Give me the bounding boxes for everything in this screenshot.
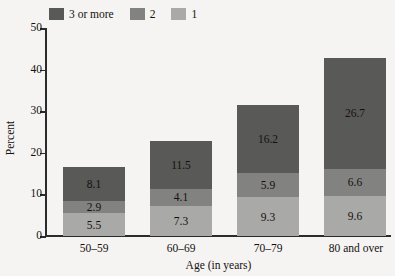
bar-segment-value: 5.9 bbox=[261, 179, 275, 191]
y-tick-label: 0 bbox=[36, 229, 42, 242]
bar-segment-1[interactable]: 7.3 bbox=[150, 206, 212, 236]
bar-segment-value: 26.7 bbox=[345, 107, 365, 119]
bar-segment-value: 9.6 bbox=[348, 210, 362, 222]
y-tick-label: 50 bbox=[31, 21, 43, 34]
stacked-bar[interactable]: 26.7 6.6 9.6 bbox=[324, 58, 386, 236]
legend-label-2: 2 bbox=[150, 8, 156, 20]
legend-label-1: 1 bbox=[191, 8, 197, 20]
bar-segment-value: 5.5 bbox=[87, 219, 101, 231]
y-axis-line bbox=[45, 28, 47, 236]
bar-segment-value: 2.9 bbox=[87, 201, 101, 213]
stacked-bar[interactable]: 8.1 2.9 5.5 bbox=[63, 167, 125, 236]
x-tick-label-50-59: 50–59 bbox=[63, 242, 125, 254]
bar-segment-value: 7.3 bbox=[174, 215, 188, 227]
stacked-bar-chart: 3 or more 2 1 Percent 0 10 20 bbox=[0, 0, 395, 276]
bar-segment-2[interactable]: 5.9 bbox=[237, 173, 299, 198]
bar-segment-2[interactable]: 4.1 bbox=[150, 189, 212, 206]
y-tick-label: 10 bbox=[31, 187, 43, 200]
bar-segment-value: 11.5 bbox=[171, 159, 191, 171]
x-tick-label-70-79: 70–79 bbox=[237, 242, 299, 254]
x-axis-title: Age (in years) bbox=[46, 259, 391, 271]
bar-segment-value: 16.2 bbox=[258, 133, 278, 145]
y-tick-label: 40 bbox=[31, 63, 43, 76]
bar-segment-1[interactable]: 9.6 bbox=[324, 196, 386, 236]
y-tick-label: 30 bbox=[31, 104, 43, 117]
legend-label-3-or-more: 3 or more bbox=[69, 8, 114, 20]
legend-entry-3-or-more: 3 or more bbox=[49, 8, 114, 20]
bar-segment-value: 6.6 bbox=[348, 176, 362, 188]
bar-segment-3-or-more[interactable]: 11.5 bbox=[150, 141, 212, 189]
bar-segment-3-or-more[interactable]: 8.1 bbox=[63, 167, 125, 201]
bar-segment-value: 9.3 bbox=[261, 211, 275, 223]
bar-segment-2[interactable]: 6.6 bbox=[324, 169, 386, 197]
legend-entry-1: 1 bbox=[171, 8, 197, 20]
bar-group-70-79: 16.2 5.9 9.3 bbox=[237, 28, 299, 236]
bar-group-60-69: 11.5 4.1 7.3 bbox=[150, 28, 212, 236]
bar-segment-1[interactable]: 9.3 bbox=[237, 197, 299, 236]
x-tick-label-60-69: 60–69 bbox=[150, 242, 212, 254]
plot-area: 0 10 20 30 40 50 8.1 bbox=[46, 28, 391, 236]
legend-swatch-3-or-more bbox=[49, 8, 64, 20]
bar-group-80-and-over: 26.7 6.6 9.6 bbox=[324, 28, 386, 236]
legend-entry-2: 2 bbox=[130, 8, 156, 20]
y-axis-title-text: Percent bbox=[4, 121, 16, 155]
x-tick-label-80-and-over: 80 and over bbox=[320, 242, 392, 254]
chart-legend: 3 or more 2 1 bbox=[49, 7, 197, 21]
bar-segment-value: 4.1 bbox=[174, 191, 188, 203]
bar-segment-2[interactable]: 2.9 bbox=[63, 201, 125, 213]
y-axis-title: Percent bbox=[3, 0, 17, 276]
stacked-bar[interactable]: 16.2 5.9 9.3 bbox=[237, 105, 299, 236]
y-tick-label: 20 bbox=[31, 146, 43, 159]
bar-group-50-59: 8.1 2.9 5.5 bbox=[63, 28, 125, 236]
bar-segment-value: 8.1 bbox=[87, 178, 101, 190]
legend-swatch-2 bbox=[130, 8, 145, 20]
bar-segment-3-or-more[interactable]: 16.2 bbox=[237, 105, 299, 172]
legend-swatch-1 bbox=[171, 8, 186, 20]
stacked-bar[interactable]: 11.5 4.1 7.3 bbox=[150, 141, 212, 236]
bar-segment-1[interactable]: 5.5 bbox=[63, 213, 125, 236]
bar-segment-3-or-more[interactable]: 26.7 bbox=[324, 58, 386, 169]
